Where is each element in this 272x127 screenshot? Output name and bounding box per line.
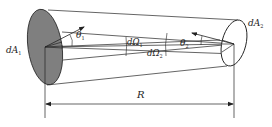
theta-1-arc	[70, 35, 72, 46]
diagram-canvas: dA1 dA2 θ1 θ2 dΩ1 dΩ2 R	[0, 0, 272, 127]
label-theta2: θ2	[180, 38, 189, 49]
label-dOmega2: dΩ2	[147, 48, 163, 59]
label-dA1: dA1	[6, 45, 21, 56]
domega-2-arc	[165, 33, 167, 56]
label-dA2: dA2	[248, 18, 263, 29]
view-factor-diagram: dA1 dA2 θ1 θ2 dΩ1 dΩ2 R	[0, 0, 272, 127]
label-distance-R: R	[136, 89, 145, 100]
label-theta1: θ1	[76, 30, 85, 41]
label-dOmega1: dΩ1	[127, 37, 143, 48]
